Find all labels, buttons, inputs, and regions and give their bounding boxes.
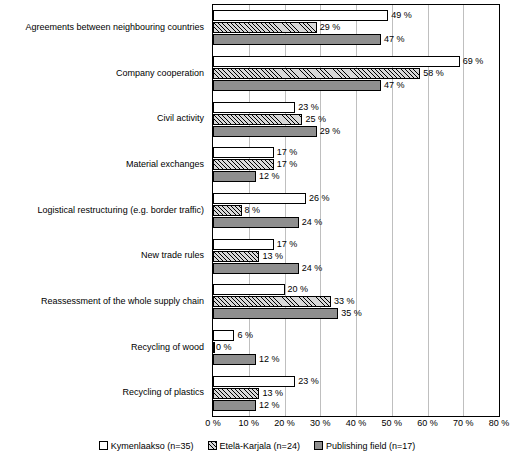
bar — [213, 147, 274, 158]
category-label: Logistical restructuring (e.g. border tr… — [0, 205, 204, 216]
bar-value-label: 12 % — [259, 353, 280, 365]
bar — [213, 193, 306, 204]
bar-group: 26 %8 %24 % — [213, 188, 499, 234]
bar — [213, 342, 215, 353]
gridline — [499, 5, 500, 416]
bar-value-label: 29 % — [320, 21, 341, 33]
category-label: Agreements between neighbouring countrie… — [0, 22, 204, 33]
bar — [213, 376, 295, 387]
bar-value-label: 17 % — [277, 158, 298, 170]
category-label: Material exchanges — [0, 159, 204, 170]
bar — [213, 171, 256, 182]
bar-group: 6 %0 %12 % — [213, 325, 499, 371]
legend-label: Kymenlaakso (n=35) — [111, 441, 194, 451]
category-label: Company cooperation — [0, 68, 204, 79]
bar-value-label: 24 % — [302, 216, 323, 228]
bar — [213, 330, 234, 341]
bar — [213, 400, 256, 411]
bar-row: 12 % — [213, 354, 499, 365]
bar-row: 26 % — [213, 193, 499, 204]
category-label: Recycling of wood — [0, 342, 204, 353]
bar-row: 47 % — [213, 80, 499, 91]
bar-value-label: 33 % — [334, 295, 355, 307]
bar-group: 23 %13 %12 % — [213, 370, 499, 416]
bar-group: 69 %58 %47 % — [213, 51, 499, 97]
bar-row: 6 % — [213, 330, 499, 341]
bar-value-label: 13 % — [262, 387, 283, 399]
bar — [213, 80, 381, 91]
x-tick-label: 30 % — [310, 418, 331, 428]
bar-value-label: 8 % — [245, 204, 261, 216]
bar-row: 25 % — [213, 114, 499, 125]
bar — [213, 284, 285, 295]
bar — [213, 22, 317, 33]
bar — [213, 205, 242, 216]
bar-row: 29 % — [213, 22, 499, 33]
bar-row: 0 % — [213, 342, 499, 353]
bar-row: 13 % — [213, 388, 499, 399]
chart-root: Agreements between neighbouring countrie… — [0, 0, 514, 463]
bar-row: 17 % — [213, 159, 499, 170]
category-label: Reassessment of the whole supply chain — [0, 296, 204, 307]
bar-value-label: 69 % — [463, 55, 484, 67]
bar — [213, 251, 259, 262]
bar-value-label: 58 % — [423, 67, 444, 79]
bar — [213, 296, 331, 307]
bar-value-label: 6 % — [237, 329, 253, 341]
x-tick-label: 0 % — [205, 418, 221, 428]
bar-row: 49 % — [213, 10, 499, 21]
bar — [213, 102, 295, 113]
bar-value-label: 23 % — [298, 375, 319, 387]
bar-group: 23 %25 %29 % — [213, 96, 499, 142]
bar-row: 17 % — [213, 147, 499, 158]
x-tick-label: 60 % — [417, 418, 438, 428]
bar-row: 13 % — [213, 251, 499, 262]
bar-group: 49 %29 %47 % — [213, 5, 499, 51]
bar — [213, 263, 299, 274]
bar-value-label: 20 % — [288, 283, 309, 295]
bar-value-label: 17 % — [277, 146, 298, 158]
bar-value-label: 12 % — [259, 399, 280, 411]
bar-row: 33 % — [213, 296, 499, 307]
x-tick-label: 20 % — [274, 418, 295, 428]
bar — [213, 308, 338, 319]
bar-value-label: 24 % — [302, 262, 323, 274]
legend: Kymenlaakso (n=35)Etelä-Karjala (n=24)Pu… — [0, 440, 514, 451]
legend-swatch — [314, 441, 323, 450]
bar-group: 20 %33 %35 % — [213, 279, 499, 325]
legend-swatch — [99, 441, 108, 450]
x-tick-label: 70 % — [453, 418, 474, 428]
category-label: Recycling of plastics — [0, 387, 204, 398]
bar-row: 17 % — [213, 239, 499, 250]
legend-item: Publishing field (n=17) — [314, 441, 415, 451]
bar-value-label: 47 % — [384, 33, 405, 45]
bar — [213, 34, 381, 45]
x-tick-label: 10 % — [238, 418, 259, 428]
bar-value-label: 26 % — [309, 192, 330, 204]
x-tick-label: 80 % — [489, 418, 510, 428]
bar-row: 69 % — [213, 56, 499, 67]
bar — [213, 239, 274, 250]
bar — [213, 388, 259, 399]
bar-row: 23 % — [213, 102, 499, 113]
bar-value-label: 25 % — [305, 113, 326, 125]
category-axis-labels: Agreements between neighbouring countrie… — [0, 0, 210, 424]
bar-value-label: 29 % — [320, 125, 341, 137]
bar-row: 24 % — [213, 263, 499, 274]
bar-value-label: 35 % — [341, 307, 362, 319]
bar — [213, 159, 274, 170]
bar — [213, 114, 302, 125]
bar-row: 24 % — [213, 217, 499, 228]
bar — [213, 10, 388, 21]
bar-group: 17 %13 %24 % — [213, 233, 499, 279]
legend-item: Kymenlaakso (n=35) — [99, 441, 194, 451]
bar-group: 17 %17 %12 % — [213, 142, 499, 188]
bar-row: 47 % — [213, 34, 499, 45]
x-tick-label: 50 % — [381, 418, 402, 428]
bar — [213, 68, 420, 79]
bar-value-label: 23 % — [298, 101, 319, 113]
bar-row: 12 % — [213, 400, 499, 411]
bar-row: 8 % — [213, 205, 499, 216]
bar — [213, 126, 317, 137]
bar-row: 20 % — [213, 284, 499, 295]
